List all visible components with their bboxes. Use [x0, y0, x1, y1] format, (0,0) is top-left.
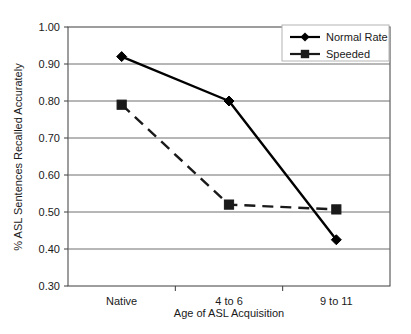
square-marker-icon	[332, 205, 341, 214]
x-axis-title: Age of ASL Acquisition	[174, 307, 284, 319]
x-tick-label: 4 to 6	[215, 295, 243, 307]
square-marker-icon	[117, 100, 126, 109]
chart-legend: Normal RateSpeeded	[282, 25, 389, 61]
y-tick-label: 0.40	[39, 243, 60, 255]
y-axis-title: % ASL Sentences Recalled Accurately	[12, 63, 24, 251]
line-chart: 1.000.900.800.700.600.500.400.30 Native4…	[0, 0, 411, 334]
square-marker-icon	[301, 50, 309, 58]
y-tick-label: 0.70	[39, 132, 60, 144]
square-marker-icon	[224, 200, 233, 209]
y-tick-label: 0.50	[39, 206, 60, 218]
y-tick-label: 0.80	[39, 95, 60, 107]
chart-container: 1.000.900.800.700.600.500.400.30 Native4…	[0, 0, 411, 334]
x-tick-label: Native	[106, 295, 137, 307]
y-tick-label: 0.60	[39, 169, 60, 181]
legend-label: Normal Rate	[326, 31, 388, 43]
y-tick-label: 1.00	[39, 21, 60, 33]
y-tick-label: 0.90	[39, 58, 60, 70]
y-tick-label: 0.30	[39, 280, 60, 292]
x-tick-label: 9 to 11	[320, 295, 353, 307]
legend-label: Speeded	[326, 48, 370, 60]
